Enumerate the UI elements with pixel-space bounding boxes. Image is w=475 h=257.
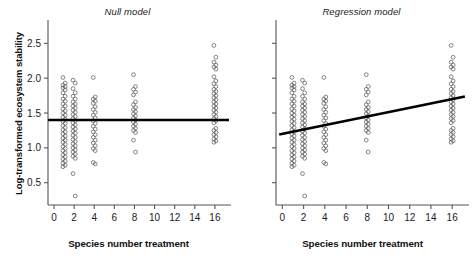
data-point (73, 194, 77, 198)
x-tick-label: 6 (343, 212, 349, 223)
x-tick-label: 2 (71, 212, 77, 223)
data-point (71, 87, 75, 91)
scatter-group (301, 78, 307, 197)
y-tick-label: 2.5 (27, 38, 41, 49)
x-tick-label: 0 (51, 212, 57, 223)
scatter-group (322, 76, 328, 166)
data-point (91, 76, 95, 80)
data-point (73, 91, 77, 95)
data-point (61, 76, 65, 80)
scatter-group (449, 44, 455, 145)
y-tick-label: 2.0 (27, 73, 41, 84)
data-point (322, 76, 326, 80)
scatter-group (290, 76, 296, 169)
scatter-group (71, 78, 77, 197)
scatter-group (364, 73, 370, 154)
x-tick-label: 8 (364, 212, 370, 223)
y-tick-label: 0.5 (27, 177, 41, 188)
x-tick-label: 14 (189, 212, 201, 223)
data-point (364, 93, 368, 97)
y-tick-label: 1.5 (27, 108, 41, 119)
data-point (303, 81, 307, 85)
scatter-group (132, 73, 138, 154)
data-point (449, 44, 453, 48)
x-tick-label: 4 (322, 212, 328, 223)
scatter-group (61, 76, 67, 169)
x-tick-label: 12 (169, 212, 181, 223)
x-tick-label: 0 (280, 212, 286, 223)
x-tick-label: 16 (447, 212, 459, 223)
data-point (449, 75, 453, 79)
x-tick-label: 10 (149, 212, 161, 223)
x-axis-title-null: Species number treatment (0, 238, 237, 249)
x-tick-label: 4 (91, 212, 97, 223)
regression-line (279, 97, 465, 135)
data-point (303, 91, 307, 95)
x-tick-label: 16 (209, 212, 221, 223)
data-point (451, 55, 455, 59)
x-axis-title-regression: Species number treatment (238, 238, 475, 249)
data-point (290, 91, 294, 95)
data-point (134, 150, 138, 154)
data-point (212, 44, 216, 48)
figure-container: Null model Log-transformed ecosystem sta… (0, 0, 475, 257)
y-tick-label: 1.0 (27, 142, 41, 153)
data-point (61, 91, 65, 95)
scatter-group (212, 44, 218, 145)
data-point (364, 138, 368, 142)
data-point (214, 55, 218, 59)
plot-area-null: 0.51.01.52.02.50246810121416 (0, 0, 237, 257)
x-tick-label: 10 (383, 212, 395, 223)
data-point (290, 76, 294, 80)
plot-area-regression: 0246810121416 (238, 0, 475, 257)
x-tick-label: 6 (112, 212, 118, 223)
data-point (301, 172, 305, 176)
x-tick-label: 12 (404, 212, 416, 223)
data-point (132, 93, 136, 97)
data-point (71, 172, 75, 176)
data-point (132, 73, 136, 77)
panel-null-model: Null model Log-transformed ecosystem sta… (0, 0, 237, 257)
x-tick-label: 2 (301, 212, 307, 223)
data-point (364, 73, 368, 77)
data-point (303, 194, 307, 198)
panel-regression-model: Regression model 0246810121416 Species n… (238, 0, 475, 257)
data-point (132, 138, 136, 142)
data-point (301, 87, 305, 91)
data-point (73, 81, 77, 85)
x-tick-label: 8 (132, 212, 138, 223)
data-point (366, 150, 370, 154)
data-point (212, 75, 216, 79)
x-tick-label: 14 (425, 212, 437, 223)
